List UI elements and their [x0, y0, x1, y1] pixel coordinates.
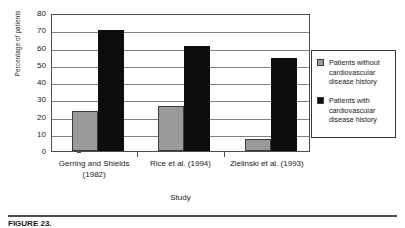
y-tick-label: 50 [30, 62, 46, 70]
y-tick-label: 30 [30, 96, 46, 104]
x-axis-separators [51, 152, 310, 157]
legend-item-without: Patients without cardiovascular disease … [317, 58, 393, 87]
x-axis-tick-labels: Gerring and Shields (1982)Rice et al. (1… [51, 159, 310, 193]
bar [271, 58, 297, 151]
y-tick-label: 20 [30, 114, 46, 122]
legend-label-without: Patients without cardiovascular disease … [329, 58, 393, 87]
bar-group [225, 15, 311, 151]
x-tick-label: Rice et al. (1994) [133, 159, 227, 170]
x-tick-label: Gerring and Shields (1982) [47, 159, 141, 180]
x-axis-title: Study [51, 193, 310, 202]
x-tick-label: Zielinski et al. (1993) [220, 159, 314, 170]
bar [245, 139, 271, 151]
figure-container: Percentage of patients 80706050403020100… [0, 0, 405, 228]
legend-label-with: Patients with cardiovascular disease his… [329, 96, 393, 125]
y-tick-label: 40 [30, 79, 46, 87]
x-axis-separator [137, 152, 138, 157]
x-axis-separator [224, 152, 225, 157]
legend-item-with: Patients with cardiovascular disease his… [317, 96, 393, 125]
y-tick-label: 80 [30, 10, 46, 18]
y-tick-label: 70 [30, 27, 46, 35]
gray-swatch-icon [317, 59, 324, 66]
y-axis-tick-labels: 80706050403020100 [30, 8, 46, 156]
black-swatch-icon [317, 97, 324, 104]
y-axis-title: Percentage of patients [14, 0, 21, 99]
bar [72, 111, 98, 151]
bar-group [52, 15, 138, 151]
bar [98, 30, 124, 151]
bars-layer [52, 15, 309, 151]
legend: Patients without cardiovascular disease … [311, 50, 396, 138]
bar [184, 46, 210, 151]
figure-caption: FIGURE 23. [8, 219, 397, 228]
bar-group [138, 15, 224, 151]
y-tick-label: 0 [30, 148, 46, 156]
y-tick-label: 10 [30, 131, 46, 139]
plot-area [51, 14, 310, 152]
caption-divider [8, 215, 397, 217]
y-tick-label: 60 [30, 45, 46, 53]
bar [158, 106, 184, 151]
